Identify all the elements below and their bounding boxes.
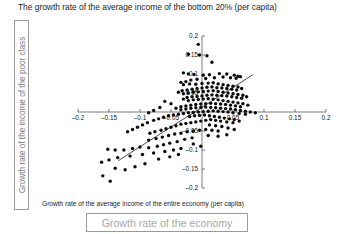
scatter-point [229,107,232,110]
scatter-point [244,113,247,116]
scatter-point [226,110,229,113]
scatter-point [225,94,228,97]
scatter-point [199,145,202,148]
scatter-point [185,96,188,99]
scatter-point [185,130,188,133]
scatter-point [219,102,222,105]
scatter-point [204,105,207,108]
scatter-point [221,99,224,102]
x-tick-label: 0.2 [322,114,331,121]
scatter-point [174,124,177,127]
scatter-point [219,119,222,122]
scatter-point [235,96,238,99]
scatter-point [147,138,150,141]
chart-figure: The growth rate of the average income of… [0,0,342,234]
scatter-point [216,110,219,113]
scatter-point [172,148,175,151]
scatter-point [210,93,213,96]
scatter-point [107,158,110,161]
scatter-point [226,91,229,94]
scatter-point [202,73,205,76]
scatter-point [214,119,217,122]
scatter-point [167,134,170,137]
scatter-point [202,110,205,113]
scatter-point [223,116,226,119]
left-label-box: Growth rate of the income of the poor cl… [14,20,29,210]
scatter-point [146,121,149,124]
scatter-point [136,126,139,129]
scatter-point [192,91,195,94]
scatter-point [101,174,104,177]
scatter-point [188,82,191,85]
scatter-point [185,88,188,91]
scatter-point [215,86,218,89]
scatter-point [215,94,218,97]
scatter-point [184,104,187,107]
scatter-point [179,147,182,150]
scatter-point [218,116,221,119]
scatter-point [220,86,223,89]
scatter-point [187,91,190,94]
scatter-point [238,112,241,115]
scatter-point [173,132,176,135]
scatter-point [179,105,182,108]
scatter-point [210,129,213,132]
scatter-point [226,126,229,129]
scatter-point [231,100,234,103]
scatter-point [231,121,234,124]
scatter-point [153,130,156,133]
scatter-point [228,117,231,120]
scatter-point [205,54,208,57]
scatter-point [213,115,216,118]
scatter-point [216,98,219,101]
scatter-point [176,140,179,143]
x-tick-label: 0.1 [260,114,269,121]
scatter-point [131,128,134,131]
scatter-point [192,129,195,132]
scatter-point [216,82,219,85]
scatter-point [147,146,150,149]
scatter-point [114,167,117,170]
scatter-point [234,104,237,107]
scatter-point [162,116,165,119]
scatter-point [224,107,227,110]
scatter-point [229,103,232,106]
scatter-point [216,90,219,93]
scatter-point [216,129,219,132]
scatter-point [164,127,167,130]
scatter-point [199,106,202,109]
scatter-point [122,148,125,151]
scatter-point [226,100,229,103]
scatter-point [179,108,182,111]
scatter-point [179,122,182,125]
scatter-point [236,101,239,104]
scatter-point [192,73,195,76]
scatter-point [224,103,227,106]
scatter-point [168,155,171,158]
scatter-point [239,105,242,108]
scatter-point [190,95,193,98]
scatter-point [233,73,236,76]
scatter-point [240,87,243,90]
y-tick-label: –0.2 [186,184,199,191]
scatter-point [167,114,170,117]
scatter-point [152,109,155,112]
scatter-point [231,111,234,114]
scatter-point [128,154,131,157]
scatter-point [221,110,224,113]
scatter-point [184,107,187,110]
scatter-point [204,119,207,122]
scatter-point [234,108,237,111]
scatter-point [207,81,210,84]
scatter-point [216,135,219,138]
scatter-point [246,103,249,106]
scatter-point [211,97,214,100]
scatter-point [195,87,198,90]
y-tick-label: –0.1 [186,146,199,153]
scatter-point [207,110,210,113]
scatter-point [239,75,242,78]
scatter-point [192,98,195,101]
scatter-point [230,95,233,98]
scatter-point [152,151,155,154]
scatter-point [203,113,206,116]
